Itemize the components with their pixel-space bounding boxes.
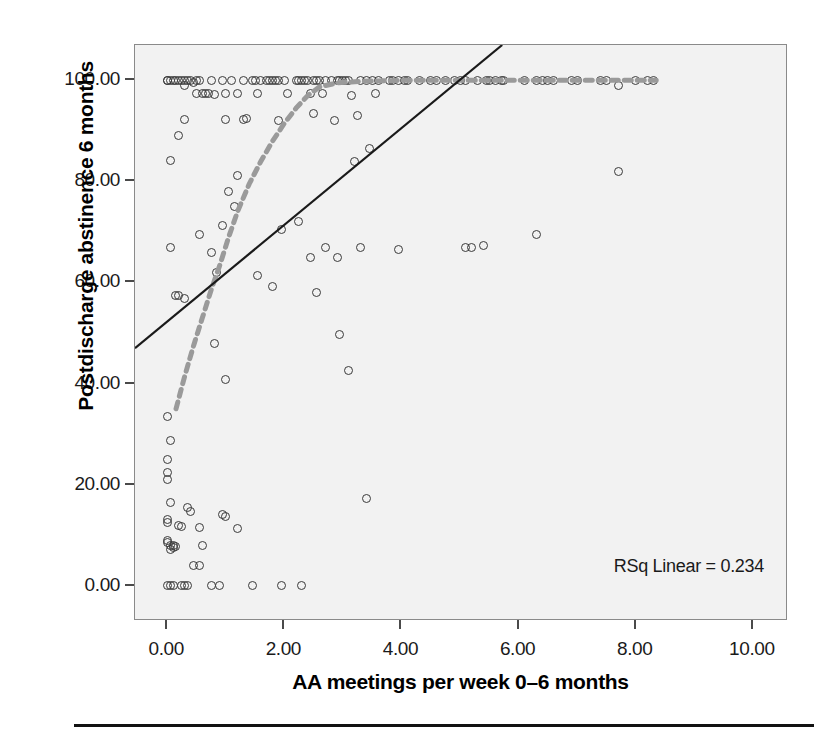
x-axis-tick-mark bbox=[517, 620, 519, 629]
x-axis-tick-label: 2.00 bbox=[266, 638, 301, 660]
x-axis-tick-label: 8.00 bbox=[617, 638, 652, 660]
rsq-annotation: RSq Linear = 0.234 bbox=[614, 556, 764, 577]
y-axis-tick-mark bbox=[125, 382, 134, 384]
y-axis-tick-mark bbox=[125, 280, 134, 282]
x-axis-tick-mark bbox=[751, 620, 753, 629]
page-divider-rule bbox=[74, 724, 814, 727]
y-axis-tick-mark bbox=[125, 584, 134, 586]
y-axis-tick-label: 20.00 bbox=[74, 473, 120, 495]
x-axis-tick-mark bbox=[634, 620, 636, 629]
x-axis-tick-label: 6.00 bbox=[500, 638, 535, 660]
x-axis-tick-label: 4.00 bbox=[383, 638, 418, 660]
plot-frame: RSq Linear = 0.234 bbox=[134, 44, 787, 620]
y-axis-tick-label: 0.00 bbox=[85, 574, 120, 596]
y-axis-tick-mark bbox=[125, 483, 134, 485]
loess-fit-line bbox=[176, 80, 656, 408]
x-axis-title: AA meetings per week 0–6 months bbox=[134, 670, 787, 694]
x-axis-tick-mark bbox=[165, 620, 167, 629]
y-axis-tick-mark bbox=[125, 179, 134, 181]
scatter-plot-figure: RSq Linear = 0.234 0.0020.0040.0060.0080… bbox=[0, 0, 826, 731]
x-axis-tick-mark bbox=[282, 620, 284, 629]
fit-lines-layer bbox=[135, 45, 786, 619]
x-axis-tick-label: 0.00 bbox=[149, 638, 184, 660]
x-axis-tick-label: 10.00 bbox=[729, 638, 775, 660]
x-axis-tick-mark bbox=[399, 620, 401, 629]
plot-area bbox=[135, 45, 786, 619]
y-axis-title: Postdischarge abstinence 6 months bbox=[74, 16, 98, 456]
y-axis-tick-mark bbox=[125, 78, 134, 80]
